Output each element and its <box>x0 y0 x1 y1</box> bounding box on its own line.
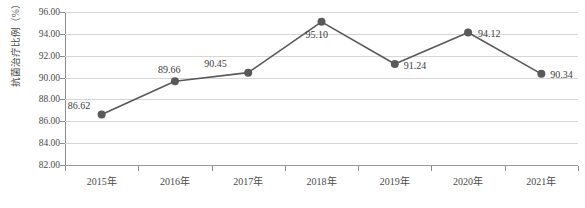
x-axis-tick-label: 2016年 <box>140 176 210 188</box>
x-axis-tick-labels: 2015年2016年2017年2018年2019年2020年2021年 <box>65 176 578 194</box>
x-axis-tick-mark <box>65 166 66 171</box>
x-axis-tick-mark <box>212 166 213 171</box>
x-axis-tick-mark <box>138 166 139 171</box>
x-axis-tick-label: 2020年 <box>433 176 503 188</box>
data-point-label: 90.45 <box>204 58 227 69</box>
data-point-marker <box>244 69 252 77</box>
y-axis-tick-label: 94.00 <box>18 29 60 39</box>
x-axis-tick-label: 2018年 <box>287 176 357 188</box>
x-axis-tick-label: 2021年 <box>506 176 576 188</box>
x-axis-tick-label: 2015年 <box>67 176 137 188</box>
data-point-marker <box>464 29 472 37</box>
line-chart: 抗菌治疗比例（%） 96.0094.0092.0090.0088.0086.00… <box>0 0 585 208</box>
data-point-marker <box>318 18 326 26</box>
data-point-label: 91.24 <box>404 60 427 71</box>
y-axis-tick-label: 90.00 <box>18 73 60 83</box>
y-axis-tick-label: 86.00 <box>18 116 60 126</box>
y-axis-tick-label: 84.00 <box>18 138 60 148</box>
data-point-label: 89.66 <box>158 64 181 75</box>
y-axis-tick-label: 82.00 <box>18 160 60 170</box>
data-point-label: 86.62 <box>68 100 91 111</box>
data-point-label: 95.10 <box>306 29 329 40</box>
data-point-label: 90.34 <box>550 69 573 80</box>
x-axis-tick-mark <box>358 166 359 171</box>
x-axis-tick-label: 2019年 <box>360 176 430 188</box>
x-axis-tick-mark <box>431 166 432 171</box>
y-axis-tick-label: 88.00 <box>18 94 60 104</box>
data-point-marker <box>537 70 545 78</box>
x-axis-tick-mark <box>578 166 579 171</box>
data-point-marker <box>391 60 399 68</box>
y-axis-tick-label: 92.00 <box>18 51 60 61</box>
x-axis-tick-mark <box>505 166 506 171</box>
y-axis-tick-label: 96.00 <box>18 7 60 17</box>
gridline <box>65 165 578 166</box>
x-axis-tick-mark <box>285 166 286 171</box>
data-point-marker <box>98 111 106 119</box>
y-axis-tick-labels: 96.0094.0092.0090.0088.0086.0084.0082.00 <box>18 6 60 166</box>
data-point-label: 94.12 <box>478 28 501 39</box>
plot-area: 86.6289.6690.4595.1091.2494.1290.34 <box>65 12 578 165</box>
data-point-marker <box>171 77 179 85</box>
x-axis-tick-label: 2017年 <box>213 176 283 188</box>
